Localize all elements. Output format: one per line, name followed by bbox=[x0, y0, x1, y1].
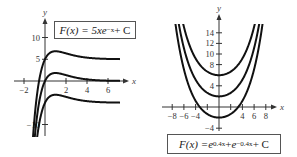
x-tick-label: 6 bbox=[252, 111, 256, 121]
y-axis-arrow-icon bbox=[43, 18, 48, 24]
x-tick-label: 2 bbox=[64, 85, 68, 95]
left-formula-lhs: F(x) = 5x bbox=[60, 24, 102, 36]
x-axis-arrow-icon bbox=[123, 79, 129, 84]
right-formula-tail: + C bbox=[253, 138, 269, 150]
y-axis-arrow-icon bbox=[217, 14, 222, 20]
right-formula-exp1: 0.4x bbox=[213, 140, 225, 148]
y-axis-label: y bbox=[42, 7, 47, 17]
x-tick-label: −8 bbox=[168, 111, 177, 121]
left-formula-exp: −x bbox=[107, 26, 114, 34]
y-tick-label: 12 bbox=[206, 38, 215, 48]
x-tick-label: −4 bbox=[191, 111, 201, 121]
x-tick-label: 4 bbox=[85, 85, 90, 95]
left-formula-tail: + C bbox=[114, 24, 130, 36]
y-tick-label: 5 bbox=[36, 54, 40, 64]
x-tick-label: 6 bbox=[106, 85, 110, 95]
curve-c-0 bbox=[163, 0, 277, 96]
x-axis-label: x bbox=[131, 76, 136, 86]
curve-c-5 bbox=[14, 51, 124, 157]
curves bbox=[14, 51, 124, 157]
y-tick-label: 10 bbox=[206, 49, 215, 59]
left-formula-box: F(x) = 5xe−x + C bbox=[54, 21, 136, 39]
x-tick-label: 4 bbox=[240, 111, 245, 121]
right-formula-exp2: −0.4x bbox=[236, 140, 252, 148]
x-tick-label: −6 bbox=[179, 111, 188, 121]
x-tick-label: −2 bbox=[19, 85, 28, 95]
y-tick-label: −4 bbox=[205, 123, 215, 133]
y-tick-label: 8 bbox=[210, 60, 214, 70]
x-axis-label: x bbox=[279, 102, 284, 112]
right-formula-lhs: F(x) = bbox=[179, 138, 208, 150]
y-tick-label: 14 bbox=[206, 28, 215, 38]
left-chart-panel: xy−2246105−10 F(x) = 5xe−x + C bbox=[0, 0, 150, 157]
x-axis-arrow-icon bbox=[271, 105, 277, 110]
y-tick-label: 4 bbox=[210, 81, 215, 91]
y-axis-label: y bbox=[216, 3, 221, 13]
y-tick-label: 10 bbox=[32, 33, 41, 43]
right-formula-box: F(x) = e0.4x + e−0.4x + C bbox=[167, 134, 281, 154]
x-tick-label: 8 bbox=[264, 111, 268, 121]
right-chart-panel: xy−8−6−446814121084−4 F(x) = e0.4x + e−0… bbox=[150, 0, 297, 157]
